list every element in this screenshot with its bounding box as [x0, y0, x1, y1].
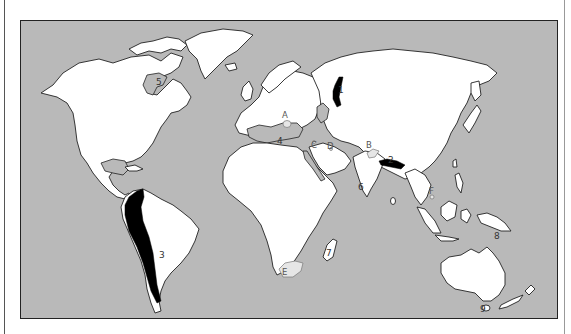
world-map: 1 2 3 4 5 6 7 8 9 A B C D E F — [20, 20, 558, 319]
label-e: E — [282, 267, 287, 277]
label-1: 1 — [338, 85, 344, 95]
label-d: D — [327, 141, 334, 151]
label-2: 2 — [388, 155, 394, 165]
sri-lanka — [391, 198, 396, 205]
map-canvas: 1 2 3 4 5 6 7 8 9 A B C D E F — [21, 21, 558, 319]
label-c: C — [311, 140, 317, 150]
label-3: 3 — [159, 250, 165, 260]
label-9: 9 — [480, 304, 486, 314]
label-a: A — [282, 110, 288, 120]
label-6: 6 — [358, 182, 364, 192]
label-f: F — [429, 186, 434, 196]
label-8: 8 — [494, 231, 500, 241]
label-b: B — [366, 140, 372, 150]
label-7: 7 — [326, 248, 332, 258]
region-a — [283, 121, 291, 128]
label-4: 4 — [277, 136, 283, 146]
taiwan — [453, 159, 457, 167]
label-5: 5 — [156, 77, 162, 87]
